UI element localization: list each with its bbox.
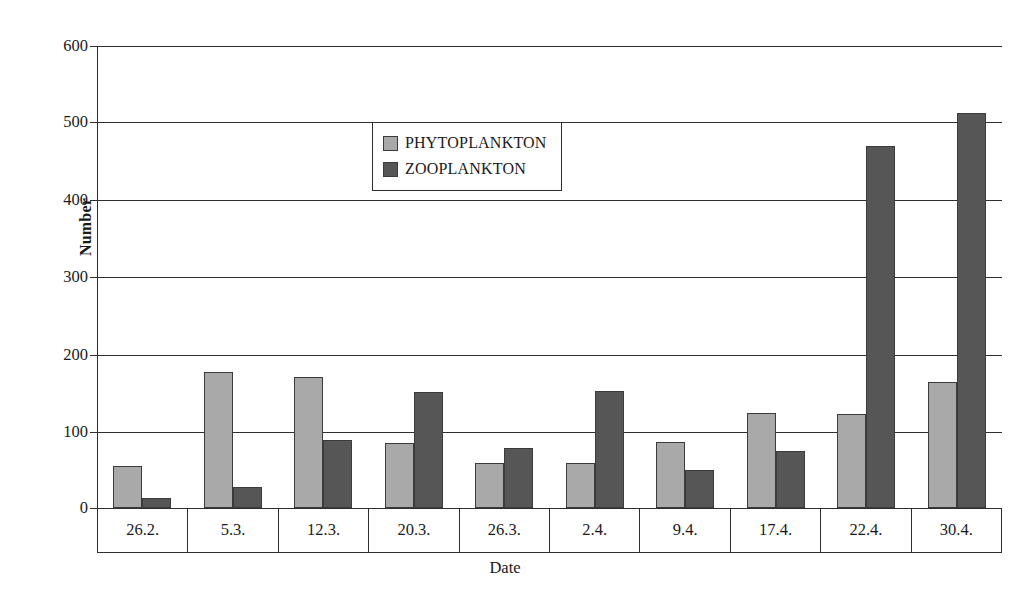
y-tick-label: 400 [42, 192, 88, 209]
y-axis-tick-labels: 600 500 400 300 200 100 0 [38, 0, 88, 599]
x-tick-label: 20.3. [369, 508, 459, 552]
legend-swatch-icon [383, 136, 398, 151]
chart-legend: PHYTOPLANKTON ZOOPLANKTON [372, 122, 562, 191]
bar-chart: Number 600 500 400 300 200 100 0 PHYTOPL… [0, 0, 1010, 599]
x-tick-label: 9.4. [640, 508, 730, 552]
bar-phytoplankton [656, 442, 685, 508]
y-tick-label: 200 [42, 347, 88, 364]
bar-zooplankton [504, 448, 533, 508]
bar-zooplankton [866, 146, 895, 508]
bar-series-container [97, 46, 1002, 508]
bar-zooplankton [685, 470, 714, 508]
x-tick-label: 5.3. [188, 508, 278, 552]
bar-phytoplankton [566, 463, 595, 508]
bar-zooplankton [323, 440, 352, 508]
bar-phytoplankton [113, 466, 142, 508]
legend-item-phytoplankton: PHYTOPLANKTON [383, 130, 547, 156]
x-tick-label: 12.3. [279, 508, 369, 552]
bar-zooplankton [957, 113, 986, 508]
bar-group [188, 46, 279, 508]
bar-phytoplankton [475, 463, 504, 508]
bar-zooplankton [776, 451, 805, 508]
y-tick-label: 0 [42, 500, 88, 517]
bar-group [97, 46, 188, 508]
bar-group [821, 46, 912, 508]
legend-label: ZOOPLANKTON [405, 160, 526, 178]
bar-phytoplankton [837, 414, 866, 508]
y-tick-label: 500 [42, 114, 88, 131]
legend-swatch-icon [383, 162, 398, 177]
bar-phytoplankton [385, 443, 414, 508]
bar-group [459, 46, 550, 508]
x-tick-label: 26.2. [98, 508, 188, 552]
bar-group [640, 46, 731, 508]
bar-phytoplankton [747, 413, 776, 508]
legend-label: PHYTOPLANKTON [405, 134, 547, 152]
y-tick-label: 100 [42, 424, 88, 441]
bar-group [369, 46, 460, 508]
x-tick-label: 26.3. [460, 508, 550, 552]
bar-group [550, 46, 641, 508]
bar-zooplankton [595, 391, 624, 508]
x-tick-label: 2.4. [550, 508, 640, 552]
bar-group [278, 46, 369, 508]
y-tick-label: 300 [42, 269, 88, 286]
x-axis-title: Date [0, 558, 1010, 578]
bar-group [912, 46, 1003, 508]
x-axis-category-band: 26.2.5.3.12.3.20.3.26.3.2.4.9.4.17.4.22.… [97, 508, 1002, 553]
y-tick-label: 600 [42, 38, 88, 55]
bar-phytoplankton [294, 377, 323, 508]
x-tick-label: 22.4. [821, 508, 911, 552]
bar-phytoplankton [204, 372, 233, 508]
bar-zooplankton [142, 498, 171, 508]
bar-zooplankton [414, 392, 443, 508]
x-tick-label: 17.4. [731, 508, 821, 552]
x-tick-label: 30.4. [912, 508, 1001, 552]
bar-phytoplankton [928, 382, 957, 508]
bar-zooplankton [233, 487, 262, 508]
legend-item-zooplankton: ZOOPLANKTON [383, 156, 547, 182]
bar-group [731, 46, 822, 508]
